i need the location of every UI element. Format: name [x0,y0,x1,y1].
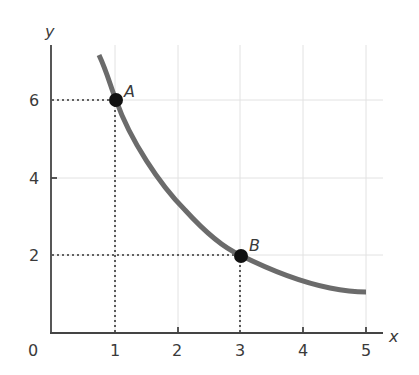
point-a [109,93,123,107]
y-axis-label: y [44,22,55,41]
x-axis-label: x [388,327,399,346]
x-tick-3: 3 [235,341,245,360]
y-tick-6: 6 [29,91,39,110]
y-tick-4: 4 [29,169,39,188]
guide-lines [52,100,240,333]
x-tick-5: 5 [361,341,371,360]
x-tick-2: 2 [172,341,182,360]
curve [99,55,366,292]
x-tick-1: 1 [110,341,120,360]
origin-label: 0 [28,341,38,360]
indifference-curve-chart: A B y x 0 1 2 3 4 5 6 4 2 [0,0,419,375]
x-tick-4: 4 [298,341,308,360]
y-tick-2: 2 [29,246,39,265]
point-a-label: A [123,82,135,101]
point-b-label: B [249,236,260,255]
point-b [234,249,248,263]
